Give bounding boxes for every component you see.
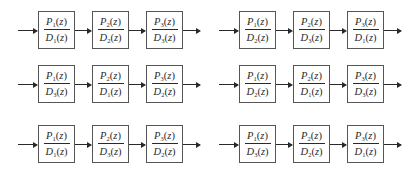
close-paren: ) — [172, 146, 176, 157]
denominator-symbol: D — [301, 86, 309, 97]
close-paren: ) — [118, 32, 122, 43]
close-paren: ) — [318, 16, 322, 27]
connector-arrow-1-2 — [276, 84, 292, 85]
denominator-symbol: D — [46, 32, 54, 43]
connector-arrow-1-2 — [75, 30, 91, 31]
fraction-bar — [44, 83, 70, 84]
close-paren: ) — [265, 146, 269, 157]
transfer-function-block-1: P1(z)D3(z) — [239, 125, 276, 163]
denominator: D2(z) — [300, 146, 324, 158]
close-paren: ) — [373, 86, 377, 97]
transfer-function-block-2: P2(z)D3(z) — [293, 11, 330, 49]
close-paren: ) — [172, 32, 176, 43]
numerator: P3(z) — [153, 70, 176, 82]
cascade-diagram-row1-left: P1(z)D1(z)P2(z)D2(z)P3(z)D3(z) — [18, 11, 218, 51]
close-paren: ) — [372, 16, 376, 27]
cascade-diagram-row2-left: P1(z)D3(z)P2(z)D1(z)P3(z)D2(z) — [18, 65, 218, 105]
fraction: P1(z)D2(z) — [245, 70, 271, 98]
fraction-bar — [44, 143, 70, 144]
close-paren: ) — [265, 32, 269, 43]
numerator: P2(z) — [300, 130, 323, 142]
numerator: P2(z) — [300, 70, 323, 82]
denominator: D2(z) — [99, 32, 123, 44]
numerator: P2(z) — [99, 70, 122, 82]
denominator-symbol: D — [355, 86, 363, 97]
fraction-bar — [245, 143, 271, 144]
cascade-diagram-row3-left: P1(z)D1(z)P2(z)D3(z)P3(z)D2(z) — [18, 125, 218, 165]
transfer-function-block-2: P2(z)D3(z) — [92, 125, 129, 163]
denominator: D3(z) — [246, 146, 270, 158]
close-paren: ) — [118, 146, 122, 157]
fraction: P3(z)D1(z) — [353, 130, 379, 158]
close-paren: ) — [373, 32, 377, 43]
connector-arrow-2-3 — [129, 30, 145, 31]
fraction: P2(z)D3(z) — [299, 16, 325, 44]
fraction-bar — [98, 83, 124, 84]
transfer-function-block-2: P2(z)D2(z) — [92, 11, 129, 49]
numerator: P3(z) — [354, 130, 377, 142]
fraction-bar — [152, 143, 178, 144]
fraction: P2(z)D2(z) — [98, 16, 124, 44]
denominator: D3(z) — [354, 86, 378, 98]
denominator: D3(z) — [99, 146, 123, 158]
fraction: P3(z)D2(z) — [152, 70, 178, 98]
transfer-function-block-3: P3(z)D3(z) — [146, 11, 183, 49]
connector-arrow-1-2 — [276, 30, 292, 31]
numerator: P3(z) — [354, 70, 377, 82]
transfer-function-block-3: P3(z)D2(z) — [146, 65, 183, 103]
denominator: D1(z) — [45, 146, 69, 158]
fraction: P2(z)D1(z) — [98, 70, 124, 98]
connector-arrow-2-3 — [129, 144, 145, 145]
fraction-bar — [98, 143, 124, 144]
numerator: P1(z) — [45, 16, 68, 28]
connector-arrow-1-2 — [75, 144, 91, 145]
denominator: D2(z) — [153, 86, 177, 98]
fraction: P2(z)D1(z) — [299, 70, 325, 98]
numerator: P2(z) — [300, 16, 323, 28]
transfer-function-block-3: P3(z)D1(z) — [347, 11, 384, 49]
close-paren: ) — [264, 130, 268, 141]
denominator-symbol: D — [301, 32, 309, 43]
close-paren: ) — [171, 130, 175, 141]
numerator: P1(z) — [246, 16, 269, 28]
fraction-bar — [98, 29, 124, 30]
input-arrow — [18, 144, 37, 145]
denominator-symbol: D — [100, 146, 108, 157]
connector-arrow-2-3 — [330, 84, 346, 85]
denominator: D1(z) — [354, 146, 378, 158]
denominator-symbol: D — [46, 86, 54, 97]
denominator-symbol: D — [355, 32, 363, 43]
close-paren: ) — [64, 146, 68, 157]
close-paren: ) — [264, 70, 268, 81]
input-arrow — [219, 30, 238, 31]
numerator: P1(z) — [45, 130, 68, 142]
fraction-bar — [299, 83, 325, 84]
close-paren: ) — [171, 16, 175, 27]
output-arrow — [384, 84, 401, 85]
output-arrow — [183, 84, 200, 85]
transfer-function-block-3: P3(z)D2(z) — [146, 125, 183, 163]
cascade-diagram-row3-right: P1(z)D3(z)P2(z)D2(z)P3(z)D1(z) — [219, 125, 418, 165]
fraction: P3(z)D1(z) — [353, 16, 379, 44]
fraction: P1(z)D3(z) — [245, 130, 271, 158]
connector-arrow-2-3 — [330, 30, 346, 31]
fraction-bar — [299, 29, 325, 30]
denominator-symbol: D — [154, 32, 162, 43]
transfer-function-block-2: P2(z)D1(z) — [293, 65, 330, 103]
close-paren: ) — [318, 130, 322, 141]
input-arrow — [18, 30, 37, 31]
numerator: P3(z) — [153, 130, 176, 142]
fraction: P3(z)D3(z) — [152, 16, 178, 44]
close-paren: ) — [63, 70, 67, 81]
connector-arrow-1-2 — [276, 144, 292, 145]
fraction-bar — [353, 83, 379, 84]
connector-arrow-2-3 — [129, 84, 145, 85]
fraction: P3(z)D3(z) — [353, 70, 379, 98]
fraction-bar — [152, 83, 178, 84]
denominator: D1(z) — [99, 86, 123, 98]
transfer-function-block-1: P1(z)D1(z) — [38, 125, 75, 163]
close-paren: ) — [117, 16, 121, 27]
output-arrow — [183, 30, 200, 31]
denominator: D1(z) — [300, 86, 324, 98]
denominator-symbol: D — [247, 32, 255, 43]
